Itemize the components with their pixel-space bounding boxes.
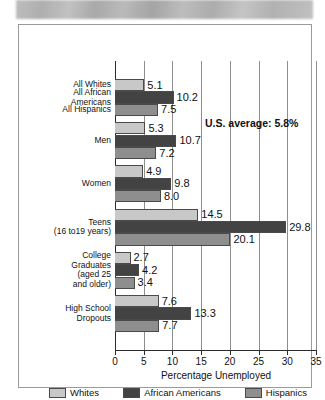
bar-value-whites-3: 14.5 — [201, 209, 222, 220]
bar-value-african-1: 10.7 — [179, 135, 200, 146]
category-label-2: All Hispanics — [33, 105, 115, 115]
bar-hispanics-5 — [115, 320, 159, 332]
category-label-line: Dropouts — [33, 314, 111, 324]
legend-swatch-hispanics — [245, 388, 262, 398]
bar-african-1 — [115, 135, 176, 147]
tickmark-10 — [172, 350, 173, 355]
tick-label-5: 5 — [132, 356, 156, 367]
tick-label-20: 20 — [218, 356, 242, 367]
bar-whites-4 — [115, 252, 131, 264]
bar-value-hispanics-1: 7.2 — [159, 148, 174, 159]
plot-area: 5.1All Whites10.2All AfricanAmericans7.5… — [115, 61, 316, 350]
bar-value-hispanics-0: 7.5 — [161, 104, 176, 115]
category-label-line: Men — [33, 136, 111, 146]
legend-entry-hispanics[interactable]: Hispanics — [245, 387, 307, 398]
tickmark-5 — [144, 350, 145, 355]
bar-value-african-4: 4.2 — [142, 265, 157, 276]
category-label-4: Women — [33, 179, 115, 189]
bar-whites-3 — [115, 209, 198, 221]
bar-value-hispanics-2: 8.0 — [164, 191, 179, 202]
bar-value-hispanics-3: 20.1 — [233, 234, 254, 245]
blurred-header-banner — [16, 0, 313, 19]
legend-label-hispanics: Hispanics — [266, 387, 307, 398]
tick-label-25: 25 — [247, 356, 271, 367]
bar-african-5 — [115, 307, 191, 319]
bar-hispanics-2 — [115, 190, 161, 202]
chart-figure-frame: 05101520253035 Percentage Unemployed U.S… — [18, 24, 312, 388]
category-label-5: Teens(16 to19 years) — [33, 218, 115, 237]
bar-whites-1 — [115, 122, 145, 134]
bar-value-whites-2: 4.9 — [146, 166, 161, 177]
bar-african-2 — [115, 178, 171, 190]
tick-label-15: 15 — [189, 356, 213, 367]
bar-value-african-5: 13.3 — [194, 308, 215, 319]
tick-label-35: 35 — [304, 356, 325, 367]
tickmark-35 — [316, 350, 317, 355]
tick-label-0: 0 — [103, 356, 127, 367]
legend-label-whites: Whites — [70, 387, 99, 398]
bar-value-african-2: 9.8 — [174, 178, 189, 189]
tickmark-20 — [230, 350, 231, 355]
gridline-35 — [316, 61, 317, 350]
legend-swatch-african — [123, 388, 140, 398]
category-label-6: CollegeGraduates(aged 25and older) — [33, 251, 115, 289]
category-label-line: All Hispanics — [33, 105, 111, 115]
tickmark-0 — [115, 350, 116, 355]
legend-entry-african[interactable]: African Americans — [123, 387, 221, 398]
legend-label-african: African Americans — [144, 387, 221, 398]
tickmark-15 — [201, 350, 202, 355]
category-label-7: High SchoolDropouts — [33, 304, 115, 323]
tickmark-30 — [287, 350, 288, 355]
x-axis-title: Percentage Unemployed — [115, 370, 317, 381]
category-label-line: Women — [33, 179, 111, 189]
bar-african-0 — [115, 91, 174, 103]
bar-whites-2 — [115, 165, 143, 177]
tickmark-25 — [259, 350, 260, 355]
bar-african-3 — [115, 221, 286, 233]
tick-label-30: 30 — [275, 356, 299, 367]
bar-value-whites-4: 2.7 — [134, 252, 149, 263]
category-label-line: and older) — [33, 280, 111, 290]
bar-whites-0 — [115, 79, 144, 91]
bar-value-whites-1: 5.3 — [148, 123, 163, 134]
bar-african-4 — [115, 264, 139, 276]
bar-value-african-3: 29.8 — [289, 222, 310, 233]
bar-hispanics-0 — [115, 104, 158, 116]
bar-value-hispanics-4: 3.4 — [138, 277, 153, 288]
bar-value-whites-5: 7.6 — [162, 296, 177, 307]
bar-whites-5 — [115, 295, 159, 307]
legend-entry-whites[interactable]: Whites — [49, 387, 99, 398]
bar-value-whites-0: 5.1 — [147, 80, 162, 91]
legend-swatch-whites — [49, 388, 66, 398]
bar-hispanics-4 — [115, 277, 135, 289]
bar-hispanics-3 — [115, 233, 230, 245]
tick-label-10: 10 — [160, 356, 184, 367]
category-label-3: Men — [33, 136, 115, 146]
category-label-line: (16 to19 years) — [33, 227, 111, 237]
bar-hispanics-1 — [115, 147, 156, 159]
chart-legend: WhitesAfrican AmericansHispanics — [49, 387, 307, 398]
bar-value-hispanics-5: 7.7 — [162, 320, 177, 331]
bar-value-african-0: 10.2 — [177, 92, 198, 103]
